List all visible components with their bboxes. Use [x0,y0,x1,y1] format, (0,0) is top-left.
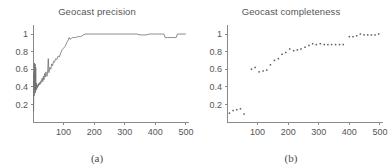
data-point [378,33,380,35]
data-point [320,43,322,45]
y-tick-label: 0.8 [15,47,28,57]
data-point [308,45,310,47]
y-tick-label: 0.2 [15,100,28,110]
caption-b: (b) [194,152,388,164]
data-point [327,44,329,46]
data-point [349,36,351,38]
panel-geocast-completeness: Geocast completeness 0.20.40.60.81100200… [194,0,388,166]
data-point [339,44,341,46]
data-point [274,60,276,62]
x-tick-label: 200 [87,127,102,137]
data-point [324,44,326,46]
data-point [363,34,365,36]
data-point [342,44,344,46]
data-point [352,36,354,38]
data-point [229,112,231,114]
data-point [374,34,376,36]
x-tick-label: 400 [342,127,357,137]
y-tick-label: 1 [23,29,28,39]
data-point [278,58,280,60]
x-tick-label: 300 [311,127,326,137]
data-point [335,44,337,46]
data-point [251,68,253,70]
data-point [281,54,283,56]
data-point [367,34,369,36]
data-point [356,35,358,37]
data-point [262,70,264,72]
data-point [232,110,234,112]
x-tick-label: 100 [250,127,265,137]
figure-row: Geocast precision 0.20.40.60.81100200300… [0,0,388,166]
data-point [240,108,242,110]
data-point [236,109,238,111]
y-tick-label: 0.6 [209,64,222,74]
data-point [270,64,272,66]
data-point [316,44,318,46]
x-tick-label: 500 [178,127,193,137]
x-tick-label: 100 [56,127,71,137]
data-point [258,71,260,73]
y-tick-label: 1 [217,29,222,39]
x-tick-label: 200 [281,127,296,137]
caption-a: (a) [0,152,194,164]
y-tick-label: 0.4 [209,82,222,92]
plot-precision: 0.20.40.60.81100200300400500 [0,0,194,166]
panel-geocast-precision: Geocast precision 0.20.40.60.81100200300… [0,0,194,166]
y-tick-label: 0.8 [209,47,222,57]
data-point [266,69,268,71]
data-point [293,50,295,52]
data-point [300,48,302,50]
y-tick-label: 0.6 [15,64,28,74]
data-point [285,52,287,54]
data-point [312,43,314,45]
data-series-line [34,34,186,111]
data-point [371,34,373,36]
data-point [254,67,256,69]
plot-completeness: 0.20.40.60.81100200300400500 [194,0,388,166]
data-point [289,48,291,50]
data-point [360,33,362,35]
data-point [304,46,306,48]
y-tick-label: 0.2 [209,100,222,110]
data-point [331,44,333,46]
data-point [243,113,245,115]
x-tick-label: 400 [148,127,163,137]
data-point [297,49,299,51]
x-tick-label: 500 [372,127,387,137]
y-tick-label: 0.4 [15,82,28,92]
x-tick-label: 300 [117,127,132,137]
